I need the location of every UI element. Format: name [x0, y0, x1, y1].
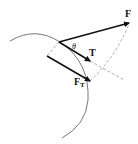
label-FT-sub: T [80, 81, 85, 89]
dashed-tangent-extension [90, 61, 124, 80]
tangential-force-arrow-FT [47, 56, 90, 81]
force-diagram: F T θ FT [0, 0, 138, 144]
dashed-offset-line [47, 42, 59, 56]
label-F: F [125, 8, 131, 19]
label-T: T [89, 47, 96, 58]
force-arrow-F [59, 23, 129, 42]
label-theta: θ [72, 42, 76, 51]
